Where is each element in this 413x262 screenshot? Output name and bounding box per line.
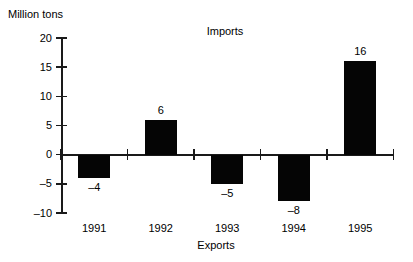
x-axis-category-label: 1993	[202, 223, 252, 234]
y-axis-tick-label: 10	[18, 91, 52, 102]
x-axis-tick	[127, 149, 129, 160]
y-axis-tick	[56, 96, 67, 98]
x-axis-category-label: 1994	[269, 223, 319, 234]
x-axis-tick	[393, 149, 395, 160]
x-axis-category-label: 1991	[69, 223, 119, 234]
y-axis-tick-label: 0	[18, 149, 52, 160]
x-axis-tick	[260, 149, 262, 160]
exports-annotation: Exports	[156, 240, 276, 251]
y-axis-tick-label: –10	[18, 208, 52, 219]
y-axis-tick-label-text: 10	[22, 91, 52, 102]
y-axis-tick-label-text: 15	[22, 62, 52, 73]
bar-value-label: 6	[136, 105, 186, 116]
y-axis-tick	[56, 66, 67, 68]
y-axis-tick-label: –5	[18, 178, 52, 189]
y-axis-tick	[56, 183, 67, 185]
y-axis-tick	[56, 37, 67, 39]
bar-value-label: 16	[335, 46, 385, 57]
y-axis-tick-label: 5	[18, 120, 52, 131]
x-axis-tick	[326, 149, 328, 160]
bar-value-label: –4	[69, 182, 119, 193]
y-axis-tick-label: 20	[18, 33, 52, 44]
imports-annotation: Imports	[176, 26, 274, 37]
y-axis-tick-label: 15	[18, 62, 52, 73]
x-axis-tick	[193, 149, 195, 160]
y-axis-tick-label-text: 20	[22, 33, 52, 44]
y-axis-tick-label-text: 5	[22, 120, 52, 131]
bar-value-label: –8	[269, 205, 319, 216]
y-axis-tick-label-text: 0	[22, 149, 52, 160]
x-axis-category-label: 1995	[335, 223, 385, 234]
bar	[211, 155, 243, 184]
bar-value-label: –5	[202, 188, 252, 199]
y-axis-tick	[56, 125, 67, 127]
y-axis-tick-label-text: –10	[22, 208, 52, 219]
x-axis-category-label: 1992	[136, 223, 186, 234]
bar	[145, 120, 177, 155]
bar-chart: Million tons Imports 20151050–5–10 –4199…	[0, 0, 413, 262]
y-axis-title: Million tons	[8, 8, 63, 21]
bar	[278, 155, 310, 202]
x-axis-tick	[60, 149, 62, 160]
bar	[78, 155, 110, 178]
bar	[344, 61, 376, 154]
y-axis-tick-label-text: –5	[22, 178, 52, 189]
y-axis-tick	[56, 212, 67, 214]
